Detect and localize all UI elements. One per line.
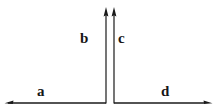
arrowhead-left-icon: [5, 101, 14, 104]
diagram-figure: [0, 0, 217, 112]
segment-label-b: b: [80, 31, 88, 46]
segment-b: [104, 7, 109, 104]
segment-a: [5, 101, 107, 104]
segment-label-a: a: [37, 84, 45, 99]
segment-label-c: c: [118, 31, 125, 46]
arrowhead-up-c-icon: [112, 7, 117, 17]
segment-label-d: d: [161, 84, 169, 99]
arrowhead-up-b-icon: [104, 7, 109, 17]
arrowhead-right-icon: [204, 101, 213, 104]
diagram-canvas: a b c d: [0, 0, 217, 112]
segment-d: [114, 101, 213, 104]
segment-c: [112, 7, 117, 104]
